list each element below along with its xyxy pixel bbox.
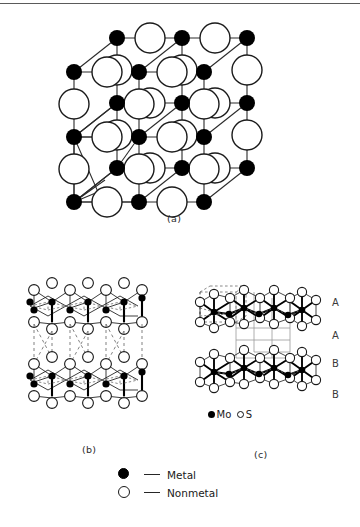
stacking-label-a-1: A (332, 297, 339, 308)
s-marker-icon (237, 411, 244, 418)
panel-c-svg (196, 278, 322, 403)
panel-b-caption: (b) (82, 444, 96, 455)
panel-b-lower-slab (26, 352, 147, 409)
legend-dash-metal (144, 474, 160, 475)
figure-root: (a) (0, 0, 360, 527)
panel-c-caption: (c) (254, 449, 268, 460)
panel-c-inline-key: Mo S (208, 409, 252, 420)
mo-marker-icon (208, 411, 215, 418)
panel-b-svg (24, 272, 164, 432)
stacking-label-a-2: A (332, 330, 339, 341)
legend-item-nonmetal: Nonmetal (118, 484, 218, 501)
panel-c-upper-slab (195, 285, 320, 332)
nonmetal-marker-icon (118, 486, 131, 499)
panel-a-caption: (a) (167, 213, 181, 224)
legend-label-metal: Metal (167, 469, 196, 481)
panel-c-lower-slab (195, 345, 320, 392)
metal-marker-icon (118, 468, 131, 481)
panel-b-layered-structure (24, 272, 164, 432)
page-header-rule (0, 3, 360, 4)
stacking-label-b-2: B (332, 389, 339, 400)
legend-item-metal: Metal (118, 466, 196, 483)
s-label: S (246, 409, 252, 420)
legend-dash-nonmetal (144, 492, 160, 493)
mo-label: Mo (217, 409, 232, 420)
panel-a-rocksalt-structure (62, 20, 292, 200)
figure-legend: Metal Nonmetal (0, 466, 360, 508)
panel-c-mos2-structure (196, 278, 322, 403)
stacking-label-b-1: B (332, 358, 339, 369)
legend-label-nonmetal: Nonmetal (167, 487, 218, 499)
panel-b-upper-slab (26, 278, 147, 335)
panel-a-svg (62, 20, 292, 200)
